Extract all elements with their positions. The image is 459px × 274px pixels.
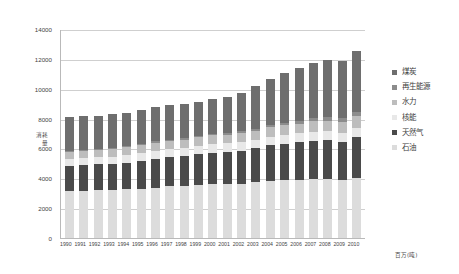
bar-segment[interactable] — [108, 164, 117, 190]
bar-segment[interactable] — [352, 178, 361, 238]
legend-item[interactable]: 核能 — [392, 114, 458, 122]
bar-segment[interactable] — [151, 188, 160, 238]
bar-segment[interactable] — [122, 113, 131, 146]
bar-segment[interactable] — [194, 137, 203, 146]
legend-item[interactable]: 水力 — [392, 98, 458, 106]
bar-segment[interactable] — [180, 156, 189, 185]
bar-segment[interactable] — [323, 140, 332, 179]
bar-segment[interactable] — [94, 150, 103, 157]
bar-column[interactable] — [352, 30, 361, 238]
bar-segment[interactable] — [79, 116, 88, 150]
bar-segment[interactable] — [251, 182, 260, 238]
legend-item[interactable]: 再生能源 — [392, 83, 458, 91]
bar-segment[interactable] — [65, 159, 74, 166]
bar-segment[interactable] — [151, 151, 160, 159]
bar-segment[interactable] — [208, 99, 217, 134]
bar-segment[interactable] — [165, 105, 174, 140]
bar-segment[interactable] — [194, 102, 203, 136]
bar-segment[interactable] — [251, 86, 260, 128]
bar-segment[interactable] — [65, 152, 74, 159]
bar-segment[interactable] — [79, 191, 88, 238]
bar-column[interactable] — [237, 30, 246, 238]
bar-segment[interactable] — [180, 148, 189, 156]
bar-column[interactable] — [208, 30, 217, 238]
bar-segment[interactable] — [280, 73, 289, 123]
bar-segment[interactable] — [180, 186, 189, 238]
bar-column[interactable] — [65, 30, 74, 238]
bar-segment[interactable] — [137, 189, 146, 238]
bar-segment[interactable] — [237, 151, 246, 184]
bar-segment[interactable] — [208, 184, 217, 238]
bar-segment[interactable] — [295, 68, 304, 121]
bar-segment[interactable] — [352, 137, 361, 179]
bar-column[interactable] — [122, 30, 131, 238]
bar-segment[interactable] — [251, 140, 260, 149]
bar-segment[interactable] — [122, 155, 131, 163]
bar-column[interactable] — [151, 30, 160, 238]
bar-column[interactable] — [137, 30, 146, 238]
bar-segment[interactable] — [309, 63, 318, 119]
bar-segment[interactable] — [180, 104, 189, 138]
bar-segment[interactable] — [323, 60, 332, 117]
bar-segment[interactable] — [79, 158, 88, 165]
bar-segment[interactable] — [251, 148, 260, 182]
bar-segment[interactable] — [280, 135, 289, 144]
bar-segment[interactable] — [122, 163, 131, 190]
bar-segment[interactable] — [79, 151, 88, 158]
bar-segment[interactable] — [151, 143, 160, 151]
bar-segment[interactable] — [338, 180, 347, 238]
bar-segment[interactable] — [137, 110, 146, 144]
bar-segment[interactable] — [223, 152, 232, 184]
bar-segment[interactable] — [251, 131, 260, 140]
bar-segment[interactable] — [323, 131, 332, 140]
bar-column[interactable] — [223, 30, 232, 238]
bar-segment[interactable] — [208, 135, 217, 144]
bar-segment[interactable] — [223, 184, 232, 238]
bar-segment[interactable] — [237, 184, 246, 238]
bar-segment[interactable] — [295, 124, 304, 134]
bar-segment[interactable] — [295, 133, 304, 142]
bar-segment[interactable] — [108, 190, 117, 238]
legend-item[interactable]: 天然气 — [392, 129, 458, 137]
bar-segment[interactable] — [122, 147, 131, 155]
bar-segment[interactable] — [338, 122, 347, 133]
bar-segment[interactable] — [122, 189, 131, 238]
bar-segment[interactable] — [352, 116, 361, 128]
bar-column[interactable] — [165, 30, 174, 238]
bar-column[interactable] — [94, 30, 103, 238]
bar-segment[interactable] — [180, 140, 189, 148]
bar-segment[interactable] — [108, 114, 117, 147]
bar-segment[interactable] — [323, 121, 332, 132]
bar-segment[interactable] — [165, 141, 174, 149]
bar-segment[interactable] — [137, 161, 146, 189]
bar-segment[interactable] — [280, 180, 289, 238]
bar-segment[interactable] — [323, 179, 332, 238]
bar-segment[interactable] — [165, 186, 174, 238]
bar-segment[interactable] — [338, 133, 347, 142]
bar-column[interactable] — [280, 30, 289, 238]
bar-segment[interactable] — [79, 165, 88, 191]
bar-segment[interactable] — [137, 145, 146, 153]
bar-segment[interactable] — [94, 164, 103, 190]
bar-segment[interactable] — [237, 142, 246, 151]
legend-item[interactable]: 煤炭 — [392, 68, 458, 76]
bar-segment[interactable] — [352, 51, 361, 112]
bar-segment[interactable] — [94, 157, 103, 164]
bar-segment[interactable] — [108, 157, 117, 164]
bar-segment[interactable] — [295, 142, 304, 179]
bar-segment[interactable] — [280, 125, 289, 135]
bar-segment[interactable] — [309, 121, 318, 131]
bar-segment[interactable] — [94, 190, 103, 238]
bar-segment[interactable] — [266, 181, 275, 238]
bar-segment[interactable] — [108, 149, 117, 157]
bar-segment[interactable] — [208, 144, 217, 153]
bar-segment[interactable] — [309, 141, 318, 180]
bar-column[interactable] — [194, 30, 203, 238]
bar-column[interactable] — [266, 30, 275, 238]
bar-segment[interactable] — [280, 144, 289, 180]
bar-segment[interactable] — [65, 166, 74, 191]
bar-segment[interactable] — [266, 127, 275, 136]
bar-segment[interactable] — [352, 128, 361, 137]
bar-segment[interactable] — [137, 153, 146, 161]
bar-column[interactable] — [309, 30, 318, 238]
